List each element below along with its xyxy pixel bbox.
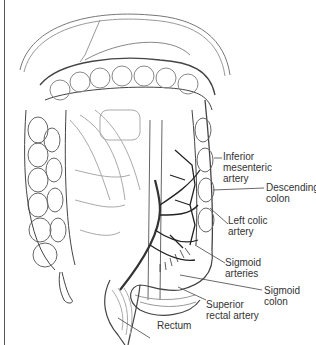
label-rectum: Rectum <box>157 320 191 331</box>
label-sigmoid-colon: Sigmoid colon <box>264 285 300 307</box>
label-inferior-mesenteric-artery: Inferior mesenteric artery <box>223 151 272 184</box>
label-sigmoid-arteries: Sigmoid arteries <box>225 257 261 279</box>
label-left-colic-artery: Left colic artery <box>228 215 267 237</box>
label-descending-colon: Descending colon <box>266 182 316 204</box>
label-superior-rectal-artery: Superior rectal artery <box>206 299 259 321</box>
